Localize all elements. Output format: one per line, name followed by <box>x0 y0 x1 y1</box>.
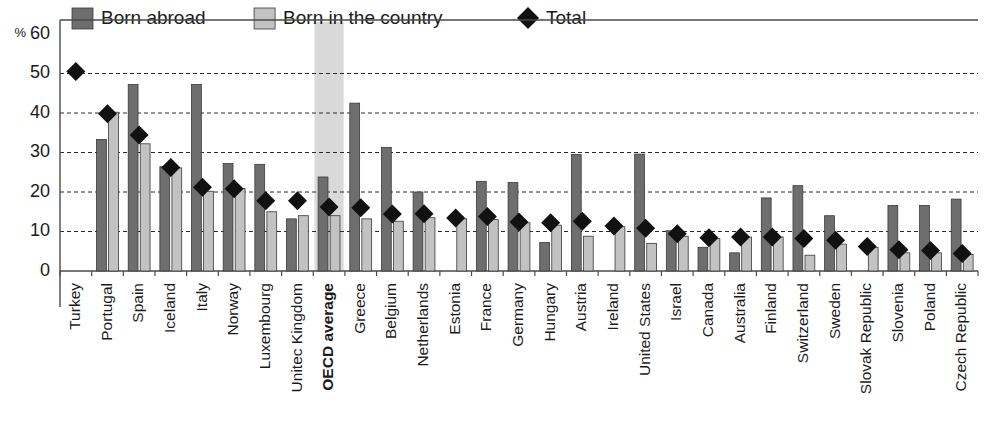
bar-born-in-the-country <box>678 236 688 271</box>
x-category-label: United States <box>636 283 653 376</box>
x-category-label: Italy <box>193 283 210 312</box>
x-category-label: Netherlands <box>414 283 431 367</box>
x-category-label: Canada <box>699 283 716 338</box>
x-category-label: Germany <box>509 283 526 347</box>
chart-container: Born abroadBorn in the countryTotal 6050… <box>0 0 985 440</box>
x-category-label: Sweden <box>826 283 843 339</box>
x-category-label: Czech Republic <box>952 283 969 392</box>
y-tick-label-30: 30 <box>30 141 50 161</box>
bar-born-in-the-country <box>583 236 593 271</box>
x-category-label: Portugal <box>98 283 115 341</box>
legend-swatch-born-in-the-country <box>254 8 275 29</box>
x-category-label: Ireland <box>604 283 621 330</box>
bar-born-in-the-country <box>267 212 277 271</box>
bar-born-in-the-country <box>520 223 530 271</box>
bar-born-abroad <box>920 205 930 271</box>
bar-born-in-the-country <box>362 219 372 271</box>
x-category-label: Luxembourg <box>256 283 273 369</box>
legend-label: Born in the country <box>283 7 443 28</box>
x-axis-category-labels: TurkeyPortugalSpainIcelandItalyNorwayLux… <box>66 283 969 395</box>
y-axis-tick-labels: 6050403020100% <box>14 23 50 280</box>
x-category-label: Norway <box>224 283 241 336</box>
bar-born-abroad <box>730 253 740 271</box>
bar-born-in-the-country <box>615 227 625 271</box>
x-category-label: Australia <box>731 283 748 344</box>
bar-born-abroad <box>413 192 423 271</box>
total-diamond-marker <box>66 62 85 81</box>
x-category-label: Unitec Kingdom <box>288 283 305 392</box>
x-category-label: Greece <box>351 283 368 334</box>
x-category-label: Turkey <box>66 283 83 330</box>
x-category-label: France <box>477 283 494 331</box>
bar-born-in-the-country <box>140 144 150 271</box>
bar-born-in-the-country <box>647 243 657 271</box>
bar-born-in-the-country <box>805 255 815 271</box>
x-category-label: Poland <box>921 283 938 331</box>
x-category-label: Finland <box>762 283 779 334</box>
x-category-label: Austria <box>572 283 589 332</box>
bar-born-abroad <box>350 103 360 271</box>
y-tick-label-40: 40 <box>30 102 50 122</box>
bar-born-in-the-country <box>330 216 340 271</box>
bar-born-in-the-country <box>393 221 403 271</box>
y-tick-label-20: 20 <box>30 181 50 201</box>
legend-swatch-total <box>517 7 539 29</box>
bar-born-in-the-country <box>425 218 435 271</box>
bar-chart-figure: Born abroadBorn in the countryTotal 6050… <box>0 0 985 440</box>
bar-born-in-the-country <box>235 188 245 271</box>
bar-born-abroad <box>793 186 803 271</box>
x-category-label: Iceland <box>161 283 178 333</box>
x-category-label: Estonia <box>446 283 463 335</box>
legend-label: Born abroad <box>101 7 206 28</box>
bar-born-abroad <box>635 154 645 271</box>
bar-born-abroad <box>286 219 296 271</box>
bar-born-in-the-country <box>204 191 214 271</box>
x-category-label: Slovenia <box>889 283 906 343</box>
chart-legend: Born abroadBorn in the countryTotal <box>72 7 586 29</box>
bar-born-abroad <box>223 164 233 271</box>
legend-label: Total <box>546 7 586 28</box>
bar-born-abroad <box>476 181 486 271</box>
total-markers-layer <box>66 62 971 263</box>
legend-swatch-born-abroad <box>72 8 93 29</box>
y-tick-label-50: 50 <box>30 62 50 82</box>
bar-born-in-the-country <box>172 168 182 271</box>
x-category-label: Spain <box>129 283 146 323</box>
x-category-label: Belgium <box>382 283 399 339</box>
bar-born-abroad <box>192 85 202 271</box>
x-category-label: Slovak Republic <box>857 283 874 394</box>
x-category-label: OECD average <box>319 283 336 391</box>
bar-born-abroad <box>97 139 107 271</box>
bar-born-abroad <box>571 154 581 271</box>
bar-born-abroad <box>318 177 328 271</box>
bar-born-abroad <box>540 243 550 271</box>
y-tick-label-10: 10 <box>30 220 50 240</box>
x-category-label: Switzerland <box>794 283 811 363</box>
bar-born-abroad <box>698 247 708 271</box>
bar-born-abroad <box>128 85 138 271</box>
y-axis-unit-label: % <box>14 25 26 40</box>
bar-born-in-the-country <box>457 219 467 271</box>
bar-born-in-the-country <box>552 225 562 271</box>
x-category-label: Israel <box>667 283 684 321</box>
bar-born-in-the-country <box>299 216 309 271</box>
bar-born-abroad <box>888 205 898 271</box>
total-diamond-marker <box>288 191 307 210</box>
y-tick-label-0: 0 <box>40 260 50 280</box>
x-category-label: Hungary <box>541 283 558 342</box>
bar-born-in-the-country <box>837 244 847 271</box>
y-tick-label-60: 60 <box>30 23 50 43</box>
bar-born-abroad <box>255 164 265 271</box>
bar-born-in-the-country <box>488 220 498 271</box>
bar-born-abroad <box>160 167 170 271</box>
bar-born-in-the-country <box>109 112 119 271</box>
